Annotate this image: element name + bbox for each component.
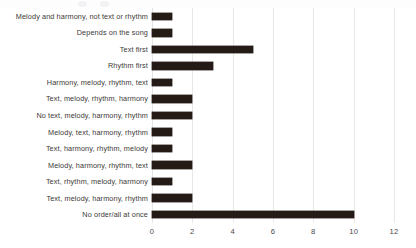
bar-row: Harmony, melody, rhythm, text — [0, 74, 416, 91]
bar[interactable] — [152, 178, 172, 186]
category-label: Melody, text, harmony, rhythm — [4, 128, 148, 137]
bar[interactable] — [152, 128, 172, 136]
bar-rows: Melody and harmony, not text or rhythmDe… — [0, 8, 416, 223]
bar[interactable] — [152, 46, 253, 54]
bar[interactable] — [152, 161, 192, 169]
bar-row: No order/all at once — [0, 206, 416, 223]
bar-track — [152, 190, 416, 207]
category-label: Rhythm first — [4, 61, 148, 70]
category-label: Harmony, melody, rhythm, text — [4, 78, 148, 87]
category-label: No order/all at once — [4, 210, 148, 219]
bar-row: Melody, text, harmony, rhythm — [0, 124, 416, 141]
bar[interactable] — [152, 62, 213, 70]
x-tick-label-6: 6 — [271, 227, 275, 236]
x-tick-label-4: 4 — [230, 227, 234, 236]
x-axis: 024681012 — [0, 223, 416, 248]
bar-track — [152, 206, 416, 223]
bar-row: Text, harmony, rhythm, melody — [0, 140, 416, 157]
x-tick-label-0: 0 — [150, 227, 154, 236]
bar-row: No text, melody, harmony, rhythm — [0, 107, 416, 124]
category-label: Depends on the song — [4, 28, 148, 37]
bar-track — [152, 124, 416, 141]
bar-row: Text first — [0, 41, 416, 58]
category-label: Melody, harmony, rhythm, text — [4, 161, 148, 170]
bar-track — [152, 41, 416, 58]
category-label: Text, melody, harmony, rhythm — [4, 194, 148, 203]
bar-track — [152, 8, 416, 25]
category-label: No text, melody, harmony, rhythm — [4, 111, 148, 120]
bar[interactable] — [152, 29, 172, 37]
category-label: Text, rhythm, melody, harmony — [4, 177, 148, 186]
category-label: Text, melody, rhythm, harmony — [4, 94, 148, 103]
bar-track — [152, 91, 416, 108]
category-label: Text, harmony, rhythm, melody — [4, 144, 148, 153]
category-label: Melody and harmony, not text or rhythm — [4, 12, 148, 21]
bar-track — [152, 74, 416, 91]
x-tick-label-2: 2 — [190, 227, 194, 236]
x-tick-label-10: 10 — [349, 227, 358, 236]
bar[interactable] — [152, 211, 354, 219]
plot-area: Melody and harmony, not text or rhythmDe… — [0, 8, 416, 248]
bar-row: Text, rhythm, melody, harmony — [0, 173, 416, 190]
bar[interactable] — [152, 79, 172, 87]
x-tick-label-12: 12 — [390, 227, 399, 236]
bar-row: Text, melody, rhythm, harmony — [0, 91, 416, 108]
bar-row: Melody, harmony, rhythm, text — [0, 157, 416, 174]
bar[interactable] — [152, 13, 172, 21]
bar[interactable] — [152, 95, 192, 103]
bar-row: Text, melody, harmony, rhythm — [0, 190, 416, 207]
category-label: Text first — [4, 45, 148, 54]
x-tick-label-8: 8 — [311, 227, 315, 236]
bar-track — [152, 107, 416, 124]
bar-track — [152, 173, 416, 190]
bar-track — [152, 25, 416, 42]
bar[interactable] — [152, 145, 172, 153]
bar-track — [152, 157, 416, 174]
bar[interactable] — [152, 112, 192, 120]
cropped-header-artifact — [0, 0, 416, 7]
bar-row: Rhythm first — [0, 58, 416, 75]
bar-row: Depends on the song — [0, 25, 416, 42]
bar-row: Melody and harmony, not text or rhythm — [0, 8, 416, 25]
bar-chart: Melody and harmony, not text or rhythmDe… — [0, 0, 416, 248]
bar[interactable] — [152, 194, 192, 202]
bar-track — [152, 58, 416, 75]
bar-track — [152, 140, 416, 157]
